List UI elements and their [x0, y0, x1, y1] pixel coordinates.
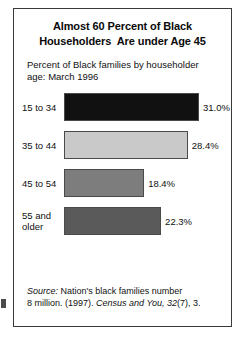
chart-title-line-2: Householders Are under Age 45: [23, 34, 222, 49]
source-text-3: (7), 3.: [177, 298, 201, 308]
bar-row: 15 to 34 31.0%: [14, 92, 231, 122]
scan-edge-artifact: [1, 299, 6, 308]
bar-category-label: 35 to 44: [22, 130, 66, 160]
bar-category-label-line: 35 to 44: [22, 140, 66, 151]
source-note-line-2: 8 million. (1997). Census and You, 32(7)…: [27, 298, 223, 310]
bar-segment: [64, 169, 144, 197]
bar-category-label-line: 55 and: [22, 210, 66, 221]
bar-segment: [64, 207, 161, 235]
chart-subtitle: Percent of Black families by householder…: [27, 59, 217, 83]
bar-chart-plot-area: 15 to 34 31.0% 35 to 44 28.4% 45 to 54 1…: [14, 92, 231, 244]
chart-title: Almost 60 Percent of Black Householders …: [23, 19, 222, 48]
bar-category-label-line: 45 to 54: [22, 178, 66, 189]
bar-value-label: 28.4%: [192, 130, 219, 160]
bar-row: 55 and older 22.3%: [14, 206, 231, 236]
bar-row: 35 to 44 28.4%: [14, 130, 231, 160]
bar-value-label: 22.3%: [165, 206, 192, 236]
source-volume: 32: [164, 298, 177, 308]
bar-row: 45 to 54 18.4%: [14, 168, 231, 198]
bar-category-label-line: 15 to 34: [22, 102, 66, 113]
source-text-2: 8 million. (1997).: [27, 298, 96, 308]
source-text-1: Nation's black families number: [58, 286, 182, 296]
bar-value-label: 31.0%: [203, 92, 230, 122]
source-note: Source: Nation's black families number 8…: [27, 286, 223, 309]
bar-value-label: 18.4%: [148, 168, 175, 198]
source-note-line-1: Source: Nation's black families number: [27, 286, 223, 298]
bar-segment: [64, 93, 199, 121]
bar-category-label-line: older: [22, 221, 66, 232]
chart-subtitle-line-1: Percent of Black families by householder: [27, 59, 217, 71]
source-publication: Census and You,: [96, 298, 164, 308]
chart-subtitle-line-2: age: March 1996: [27, 71, 217, 83]
bar-category-label: 45 to 54: [22, 168, 66, 198]
bar-segment: [64, 131, 188, 159]
chart-figure: Almost 60 Percent of Black Householders …: [13, 8, 232, 327]
bar-category-label: 15 to 34: [22, 92, 66, 122]
source-label: Source:: [27, 286, 58, 296]
bar-category-label: 55 and older: [22, 206, 66, 236]
chart-title-line-1: Almost 60 Percent of Black: [23, 19, 222, 34]
